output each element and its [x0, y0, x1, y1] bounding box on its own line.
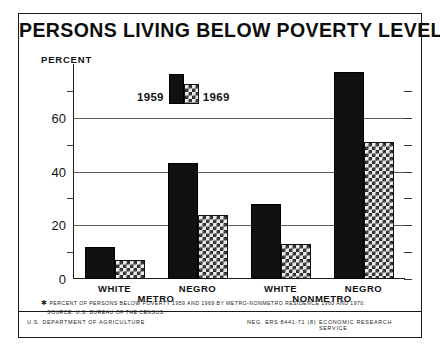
y-axis-tick-right-minor — [404, 145, 412, 146]
y-axis-tick-label: 20 — [52, 218, 66, 233]
y-axis-tick-minor — [67, 252, 74, 253]
bar-1969-nonmetro-white — [281, 244, 311, 279]
legend-label-1959: 1959 — [137, 91, 164, 104]
y-axis-tick-right — [404, 172, 412, 173]
y-axis-tick-label: 0 — [59, 272, 66, 287]
bar-1959-nonmetro-white — [251, 204, 281, 279]
bar-1959-nonmetro-negro — [334, 72, 364, 279]
y-axis-tick-right — [404, 118, 412, 119]
credit-divider — [19, 311, 421, 312]
x-axis-category-label: NEGRO — [179, 283, 216, 294]
y-axis-tick-minor — [67, 198, 74, 199]
bar-1969-metro-negro — [198, 215, 228, 280]
legend-swatch-1959 — [169, 74, 184, 104]
legend-label-1969: 1969 — [203, 91, 230, 104]
x-axis-group-label: METRO — [138, 293, 175, 304]
page-title: PERSONS LIVING BELOW POVERTY LEVEL* — [19, 19, 421, 42]
x-axis-category-label: WHITE — [98, 283, 131, 294]
credit-service: ECONOMIC RESEARCH SERVICE — [319, 319, 421, 331]
chart-legend: 1959 1969 — [137, 70, 230, 104]
bar-1969-metro-white — [115, 260, 145, 279]
y-axis-tick-right-minor — [404, 91, 412, 92]
y-axis-tick-label: 60 — [52, 110, 66, 125]
y-axis-tick-minor — [67, 145, 74, 146]
y-axis-tick-label: 40 — [52, 164, 66, 179]
chart-plot-area: 0204060 — [73, 64, 405, 279]
y-axis-tick-right — [404, 279, 412, 280]
asterisk-icon: ✱ — [41, 299, 47, 306]
y-axis-tick-minor — [67, 91, 74, 92]
bar-1959-metro-white — [85, 247, 115, 279]
bar-1969-nonmetro-negro — [364, 142, 394, 279]
poster-frame: PERSONS LIVING BELOW POVERTY LEVEL* PERC… — [18, 13, 422, 338]
footnote: ✱PERCENT OF PERSONS BELOW POVERTY 1959 A… — [41, 297, 411, 317]
y-axis-tick-right-minor — [404, 198, 412, 199]
y-axis-tick-right-minor — [404, 252, 412, 253]
y-axis-tick-right — [404, 225, 412, 226]
x-axis-group-label: NONMETRO — [292, 293, 351, 304]
bar-1959-metro-negro — [168, 163, 198, 279]
legend-swatch-1969 — [184, 84, 199, 104]
credit-agency: U.S. DEPARTMENT OF AGRICULTURE — [27, 319, 145, 325]
credit-bar: U.S. DEPARTMENT OF AGRICULTURE NEG. ERS … — [19, 316, 421, 338]
credit-neg-id: NEG. ERS 8441-71 (8) — [247, 319, 316, 325]
